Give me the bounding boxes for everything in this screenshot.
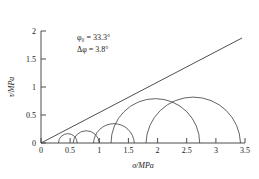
x-ticks-group bbox=[41, 138, 245, 143]
mohr-circle-4-arc bbox=[111, 99, 200, 143]
mohr-circle-chart: 0 0.5 1 1.5 2 2.5 3 3.5 0 0.5 1 1.5 2 σ/… bbox=[0, 0, 259, 179]
x-ticklabel-3: 3 bbox=[214, 146, 218, 155]
annotation-phi0: φ₀ = 33.3° bbox=[77, 33, 110, 42]
x-ticklabel-0: 0 bbox=[39, 146, 43, 155]
x-axis-title: σ/MPa bbox=[132, 161, 154, 170]
x-ticklabels-group: 0 0.5 1 1.5 2 2.5 3 3.5 bbox=[39, 146, 250, 155]
x-ticklabel-3.5: 3.5 bbox=[240, 146, 250, 155]
x-ticklabel-0.5: 0.5 bbox=[65, 146, 75, 155]
axes-group bbox=[41, 31, 245, 143]
y-axis-title: τ/MPa bbox=[7, 77, 16, 98]
y-ticklabel-2: 2 bbox=[32, 27, 36, 36]
x-ticklabel-1.5: 1.5 bbox=[123, 146, 133, 155]
x-ticklabel-2: 2 bbox=[156, 146, 160, 155]
annotation-delta-phi: Δφ = 3.8° bbox=[77, 45, 108, 54]
y-ticklabel-0: 0 bbox=[32, 139, 36, 148]
y-ticklabel-0.5: 0.5 bbox=[26, 111, 36, 120]
x-ticklabel-1: 1 bbox=[97, 146, 101, 155]
y-ticklabel-1.5: 1.5 bbox=[26, 55, 36, 64]
y-ticklabels-group: 0 0.5 1 1.5 2 bbox=[26, 27, 36, 148]
y-ticklabel-1: 1 bbox=[32, 83, 36, 92]
x-ticklabel-2.5: 2.5 bbox=[182, 146, 192, 155]
y-ticks-group bbox=[41, 31, 46, 143]
annotations-group: φ₀ = 33.3° Δφ = 3.8° bbox=[77, 33, 110, 54]
failure-envelope-line bbox=[41, 38, 242, 143]
chart-canvas: 0 0.5 1 1.5 2 2.5 3 3.5 0 0.5 1 1.5 2 σ/… bbox=[0, 0, 259, 179]
